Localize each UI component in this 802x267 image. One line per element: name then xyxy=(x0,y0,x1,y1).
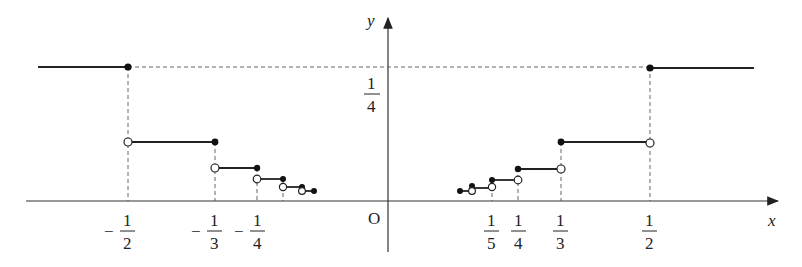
y-axis-label: y xyxy=(365,11,375,30)
closed-points xyxy=(124,63,653,194)
x-tick-quarter: 1 4 xyxy=(511,211,526,253)
svg-text:1: 1 xyxy=(556,211,565,230)
svg-text:3: 3 xyxy=(210,234,219,253)
svg-text:1: 1 xyxy=(645,211,654,230)
svg-text:2: 2 xyxy=(645,234,654,253)
guide-lines xyxy=(128,67,650,201)
x-tick-fifth: 1 5 xyxy=(484,211,499,253)
svg-text:3: 3 xyxy=(556,234,565,253)
y-tick-quarter: 1 4 xyxy=(364,74,380,116)
svg-text:1: 1 xyxy=(210,211,219,230)
svg-text:4: 4 xyxy=(367,97,376,116)
svg-text:4: 4 xyxy=(514,234,523,253)
svg-text:1: 1 xyxy=(253,211,262,230)
x-tick-neg-half: − 1 2 xyxy=(104,211,135,253)
x-axis-label: x xyxy=(767,211,776,230)
svg-text:1: 1 xyxy=(123,211,132,230)
origin-label: O xyxy=(368,209,380,228)
svg-text:−: − xyxy=(104,222,114,241)
x-tick-neg-third: − 1 3 xyxy=(191,211,222,253)
x-tick-third: 1 3 xyxy=(553,211,568,253)
step-function-graph: y x O 1 4 − 1 2 − 1 3 − 1 4 1 5 1 4 1 3 … xyxy=(0,0,802,267)
open-points xyxy=(124,138,654,194)
x-tick-half: 1 2 xyxy=(642,211,657,253)
svg-text:5: 5 xyxy=(487,234,496,253)
x-tick-neg-quarter: − 1 4 xyxy=(234,211,265,253)
svg-text:1: 1 xyxy=(367,74,376,93)
step-segments xyxy=(38,67,754,191)
svg-text:1: 1 xyxy=(487,211,496,230)
svg-text:1: 1 xyxy=(514,211,523,230)
svg-text:2: 2 xyxy=(123,234,132,253)
svg-text:4: 4 xyxy=(253,234,262,253)
svg-text:−: − xyxy=(234,222,244,241)
svg-text:−: − xyxy=(191,222,201,241)
